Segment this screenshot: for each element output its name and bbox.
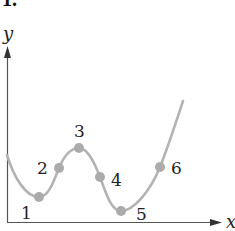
point-label-6: 6 [171, 158, 182, 178]
point-5 [116, 206, 126, 216]
point-1 [34, 192, 44, 202]
point-label-5: 5 [136, 204, 147, 224]
exercise-number: 1. [2, 0, 17, 10]
x-axis-arrow-icon [210, 219, 222, 226]
point-3 [74, 143, 84, 153]
point-label-3: 3 [74, 121, 85, 141]
point-label-2: 2 [37, 158, 48, 178]
function-curve [7, 101, 183, 211]
point-2 [54, 163, 64, 173]
y-axis-arrow-icon [4, 46, 11, 58]
point-label-1: 1 [21, 203, 32, 223]
curve-diagram: 1. y x 1 2 3 4 5 6 [0, 0, 235, 231]
x-axis-label: x [226, 211, 235, 231]
point-label-4: 4 [111, 170, 122, 190]
point-6 [155, 162, 165, 172]
y-axis-label: y [2, 23, 14, 44]
point-4 [95, 172, 105, 182]
